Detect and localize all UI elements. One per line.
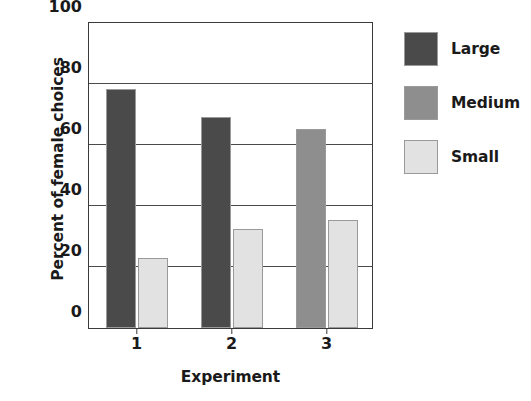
legend-label-small: Small [451, 148, 499, 166]
bar-small-exp2 [233, 229, 263, 328]
x-axis-title: Experiment [88, 368, 373, 386]
bar-chart-figure: Percent of female choices 020406080100 1… [0, 0, 531, 401]
y-tick-label: 20 [60, 243, 82, 259]
y-tick-label: 0 [71, 304, 82, 320]
legend-item-large: Large [404, 22, 531, 76]
legend-item-medium: Medium [404, 76, 531, 130]
x-tick-label-2: 2 [226, 336, 237, 352]
y-tick-label: 60 [60, 121, 82, 137]
legend-swatch-large [404, 32, 438, 66]
legend: LargeMediumSmall [404, 22, 531, 184]
y-tick-label: 80 [60, 60, 82, 76]
bar-large-exp2 [201, 117, 231, 328]
bar-small-exp1 [138, 258, 168, 328]
legend-label-large: Large [451, 40, 500, 58]
x-tick-label-3: 3 [321, 336, 332, 352]
legend-label-medium: Medium [451, 94, 520, 112]
y-tick-label: 100 [49, 0, 82, 15]
plot-area: 020406080100 123 [88, 22, 373, 329]
bar-small-exp3 [328, 220, 358, 328]
x-tick-label-1: 1 [131, 336, 142, 352]
bar-medium-exp3 [296, 129, 326, 328]
bar-large-exp1 [106, 89, 136, 328]
y-tick-label: 40 [60, 182, 82, 198]
legend-item-small: Small [404, 130, 531, 184]
legend-swatch-medium [404, 86, 438, 120]
legend-swatch-small [404, 140, 438, 174]
bar-group [89, 23, 372, 328]
